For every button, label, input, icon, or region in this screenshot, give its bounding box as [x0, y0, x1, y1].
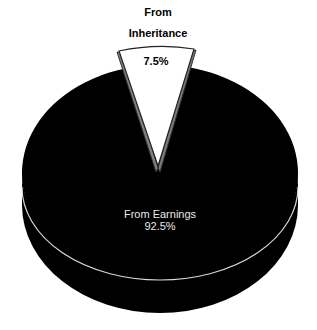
inheritance-label-line2: Inheritance — [129, 27, 188, 39]
pie-chart: From Inheritance 7.5% From Earnings 92.5… — [0, 0, 317, 330]
inheritance-value: 7.5% — [143, 55, 168, 67]
inheritance-label-line1: From — [144, 6, 172, 18]
earnings-label: From Earnings — [124, 208, 197, 220]
earnings-value: 92.5% — [144, 220, 175, 232]
